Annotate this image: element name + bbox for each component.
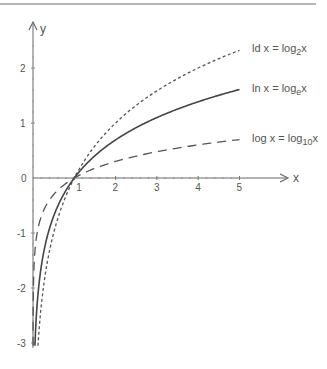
legend: ld x = log2xln x = logexlog x = log10x [252, 42, 318, 147]
legend-label-log10: log x = log10x [252, 132, 318, 147]
x-tick-label: 2 [113, 182, 119, 193]
y-ticks: 21-1-2-3 [17, 46, 35, 349]
y-tick-label: 1 [20, 118, 26, 129]
log-functions-chart: y x 0 12345 21-1-2-3 ld x = log2xln x = … [0, 0, 327, 369]
curves [33, 50, 239, 345]
x-axis-label: x [293, 171, 299, 185]
y-tick-label: -3 [17, 338, 26, 349]
x-tick-label: 4 [195, 182, 201, 193]
legend-label-log2: ld x = log2x [252, 42, 307, 57]
x-tick-label: 3 [154, 182, 160, 193]
x-tick-label: 5 [237, 182, 243, 193]
y-axis-label: y [40, 22, 46, 36]
y-tick-label: -1 [17, 228, 26, 239]
y-tick-label: -2 [17, 283, 26, 294]
curve-ln [35, 89, 240, 345]
axes: y x 0 [21, 22, 299, 348]
curve-log10 [33, 140, 239, 346]
curve-log2 [38, 50, 240, 345]
y-tick-label: 2 [20, 63, 26, 74]
x-tick-label: 1 [76, 182, 82, 193]
origin-label: 0 [21, 173, 27, 184]
legend-label-ln: ln x = logex [252, 82, 307, 97]
